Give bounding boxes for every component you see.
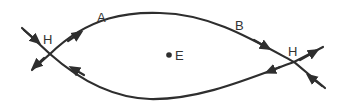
- separatrix-diagram: A B H H E: [0, 0, 356, 107]
- label-a: A: [97, 10, 106, 25]
- arrow-icon: [24, 30, 38, 42]
- arrow-icon: [34, 58, 44, 67]
- label-h-left: H: [43, 32, 52, 47]
- diagram-canvas: A B H H E: [0, 0, 356, 107]
- label-b: B: [235, 18, 244, 33]
- arrow-icon: [268, 67, 280, 72]
- elliptic-point-dot: [166, 52, 172, 58]
- arrow-icon: [254, 40, 268, 48]
- arrow-icon: [309, 76, 322, 86]
- label-e: E: [175, 48, 184, 63]
- arrow-icon: [300, 51, 316, 60]
- upper-branch-curve: [22, 13, 325, 88]
- label-h-right: H: [288, 44, 297, 59]
